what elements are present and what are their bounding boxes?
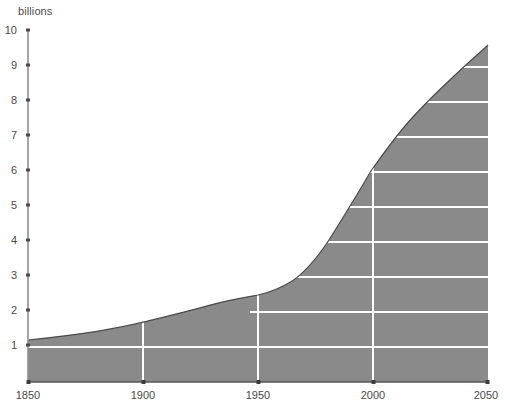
- x-tick-label-1850: 1850: [5, 389, 51, 401]
- y-tick-10: [26, 29, 30, 32]
- x-tick-2000: [372, 380, 376, 384]
- y-tick-label-3: 3: [0, 269, 17, 281]
- x-tick-label-2000: 2000: [350, 389, 396, 401]
- y-tick-5: [26, 204, 30, 207]
- x-tick-1950: [257, 380, 261, 384]
- y-tick-4: [26, 239, 30, 242]
- y-tick-6: [26, 169, 30, 172]
- x-tick-label-1900: 1900: [120, 389, 166, 401]
- y-tick-label-8: 8: [0, 94, 17, 106]
- y-tick-9: [26, 64, 30, 67]
- y-tick-label-10: 10: [0, 24, 17, 36]
- x-tick-1900: [142, 380, 146, 384]
- x-tick-label-1950: 1950: [235, 389, 281, 401]
- chart-plot-area: [0, 0, 510, 411]
- x-tick-label-2050: 2050: [463, 389, 509, 401]
- y-tick-label-5: 5: [0, 199, 17, 211]
- y-axis-unit-label: billions: [18, 5, 52, 17]
- y-tick-1: [26, 344, 30, 347]
- y-tick-8: [26, 99, 30, 102]
- x-tick-1850: [27, 380, 31, 384]
- y-tick-label-2: 2: [0, 304, 17, 316]
- x-tick-2050: [486, 380, 490, 384]
- y-tick-label-9: 9: [0, 59, 17, 71]
- y-tick-label-7: 7: [0, 129, 17, 141]
- population-area-chart: billions 10 9 8 7 6 5 4 3 2 1 1850 1900 …: [0, 0, 510, 411]
- y-tick-2: [26, 309, 30, 312]
- y-tick-7: [26, 134, 30, 137]
- y-tick-label-4: 4: [0, 234, 17, 246]
- y-tick-label-1: 1: [0, 339, 17, 351]
- y-tick-label-6: 6: [0, 164, 17, 176]
- y-tick-3: [26, 274, 30, 277]
